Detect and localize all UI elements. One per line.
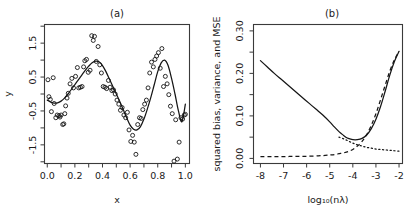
- panel-a-data-point: [174, 118, 178, 122]
- panel-b-title: (b): [325, 8, 339, 19]
- panel-a-data-point: [64, 104, 68, 108]
- panel-a-x-tick-label: 1.0: [178, 170, 193, 181]
- panel-a-data-point: [141, 108, 145, 112]
- panel-a-data-point: [131, 133, 135, 137]
- panel-a-data-point: [65, 96, 69, 100]
- panel-a-data-point: [134, 152, 138, 156]
- panel-b-y-axis-label: squared bias, variance, and MSE: [211, 17, 222, 172]
- panel-a-data-point: [127, 128, 131, 132]
- panel-b-y-tick-label: 0.20: [235, 63, 246, 84]
- panel-a-data-point: [175, 157, 179, 161]
- panel-b-y-tick-label: 0.10: [235, 105, 246, 126]
- figure-panel-container: (a) 0.00.20.40.60.81.0-1.5-0.50.51.5 x y…: [0, 0, 419, 209]
- panel-a-data-point: [92, 34, 96, 38]
- panel-a-data-point: [165, 82, 169, 86]
- panel-a-data-point: [99, 71, 103, 75]
- panel-a-x-tick-label: 0.4: [95, 170, 110, 181]
- panel-b-curves: [260, 51, 399, 156]
- panel-b-y-tick-label: 0.30: [235, 20, 246, 41]
- panel-a-data-point: [136, 123, 140, 127]
- panel-a-y-tick-label: -0.5: [28, 102, 39, 121]
- panel-b-x-tick-label: -8: [256, 170, 265, 181]
- panel-a-x-tick-label: 0.6: [123, 170, 138, 181]
- panel-a-data-point: [98, 63, 102, 67]
- panel-b-x-tick-label: -7: [279, 170, 288, 181]
- panel-a-x-axis-label: x: [114, 194, 120, 205]
- panel-a-data-point: [163, 74, 167, 78]
- panel-b-x-axis-label: log₁₀(nλ): [307, 194, 348, 205]
- panel-a-data-point: [51, 76, 55, 80]
- panel-a-data-point: [143, 102, 147, 106]
- panel-a-data-point: [162, 85, 166, 89]
- panel-a-data-point: [156, 51, 160, 55]
- panel-a-data-point: [177, 140, 181, 144]
- panel-a-data-point: [168, 104, 172, 108]
- panel-a-data-point: [75, 66, 79, 70]
- panel-a-data-point: [167, 93, 171, 97]
- panel-a-data-point: [91, 38, 95, 42]
- panel-a-scatter-points: [46, 34, 187, 163]
- panel-b-axes: -8-7-6-5-4-3-20.000.100.200.30: [235, 20, 404, 180]
- panel-a-data-point: [125, 110, 129, 114]
- panel-b-plot-frame: [254, 25, 403, 164]
- panel-a-data-point: [146, 86, 150, 90]
- panel-a-x-tick-label: 0.2: [67, 170, 82, 181]
- panel-a: (a) 0.00.20.40.60.81.0-1.5-0.50.51.5 x y: [0, 0, 209, 209]
- panel-a-data-point: [46, 78, 50, 82]
- panel-a-y-tick-label: 0.5: [28, 69, 39, 84]
- panel-a-data-point: [160, 47, 164, 51]
- panel-a-data-point: [96, 45, 100, 49]
- panel-b-y-tick-label: 0.00: [235, 148, 246, 169]
- panel-a-data-point: [68, 82, 72, 86]
- panel-a-data-point: [151, 65, 155, 69]
- panel-a-y-axis-label: y: [2, 91, 13, 97]
- panel-a-data-point: [90, 34, 94, 38]
- panel-b-curve-mse: [260, 51, 399, 140]
- panel-b-curve-squared-bias: [260, 51, 399, 156]
- panel-a-y-tick-label: -1.5: [28, 136, 39, 155]
- panel-b-curve-variance: [339, 137, 399, 151]
- panel-b-x-tick-label: -3: [371, 170, 380, 181]
- panel-a-x-tick-label: 0.0: [40, 170, 55, 181]
- panel-a-data-point: [144, 98, 148, 102]
- panel-b-x-tick-label: -4: [348, 170, 357, 181]
- panel-b-x-tick-label: -2: [394, 170, 403, 181]
- panel-a-data-point: [117, 102, 121, 106]
- panel-b: (b) -8-7-6-5-4-3-20.000.100.200.30 log₁₀…: [209, 0, 419, 209]
- panel-a-data-point: [49, 110, 53, 114]
- panel-a-data-point: [148, 71, 152, 75]
- panel-b-x-tick-label: -6: [302, 170, 311, 181]
- panel-a-x-tick-label: 0.8: [150, 170, 165, 181]
- panel-a-title: (a): [110, 8, 124, 19]
- panel-b-svg: (b) -8-7-6-5-4-3-20.000.100.200.30 log₁₀…: [209, 0, 419, 209]
- panel-a-y-tick-label: 1.5: [28, 36, 39, 51]
- panel-a-data-point: [82, 65, 86, 69]
- panel-a-data-point: [63, 112, 67, 116]
- panel-a-data-point: [115, 98, 119, 102]
- panel-a-svg: (a) 0.00.20.40.60.81.0-1.5-0.50.51.5 x y: [0, 0, 209, 209]
- panel-b-x-tick-label: -5: [325, 170, 334, 181]
- panel-a-data-point: [74, 74, 78, 78]
- panel-a-data-point: [170, 112, 174, 116]
